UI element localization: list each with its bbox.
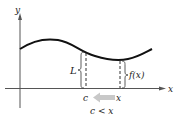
limit-L-label: L <box>69 65 77 76</box>
c-point-label: c <box>83 93 88 103</box>
y-axis <box>18 13 22 108</box>
function-curve <box>20 39 152 60</box>
y-axis-label: y <box>14 5 21 15</box>
diagram-canvas: y x L f(x) c x c < x <box>0 0 179 122</box>
brace-L-icon <box>78 52 84 88</box>
x-axis <box>5 87 166 91</box>
x-axis-label: x <box>168 84 173 94</box>
x-point-label: x <box>116 93 121 103</box>
condition-label: c < x <box>90 106 113 116</box>
approach-arrow-icon <box>93 93 115 103</box>
function-value-label: f(x) <box>128 70 145 80</box>
brace-fx-icon <box>122 61 128 88</box>
limit-diagram: y x L f(x) c x c < x <box>0 0 179 122</box>
x-axis-arrowhead-icon <box>159 87 166 91</box>
